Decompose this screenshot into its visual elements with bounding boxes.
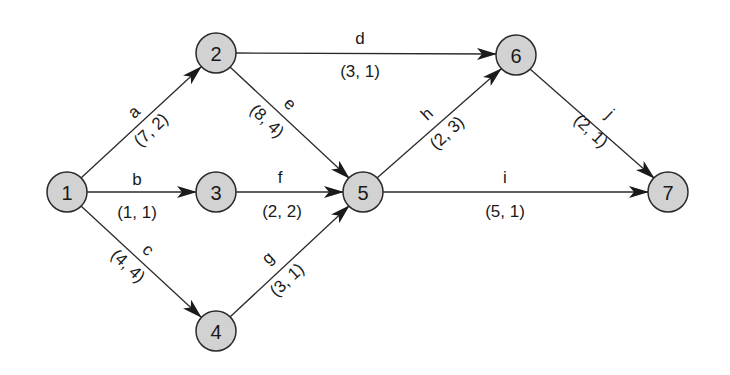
node-3-label: 3 bbox=[210, 182, 221, 204]
node-6-label: 6 bbox=[510, 45, 521, 67]
edge-g-arrow bbox=[230, 206, 349, 317]
node-1-label: 1 bbox=[61, 182, 72, 204]
node-1: 1 bbox=[47, 172, 87, 212]
node-3: 3 bbox=[196, 172, 236, 212]
edge-e-arrow bbox=[230, 67, 349, 178]
edge-a-name-label: a bbox=[124, 101, 144, 122]
node-5-label: 5 bbox=[357, 182, 368, 204]
edge-c: c (4, 4) bbox=[81, 206, 201, 317]
edge-j-name-label: j bbox=[601, 105, 617, 122]
edge-f-name-label: f bbox=[278, 168, 283, 187]
node-4-label: 4 bbox=[210, 321, 221, 343]
edge-b: b (1, 1) bbox=[87, 170, 196, 222]
node-5: 5 bbox=[343, 172, 383, 212]
edge-d: d (3, 1) bbox=[236, 29, 496, 81]
edge-h-arrow bbox=[377, 69, 501, 178]
edge-i: i (5, 1) bbox=[383, 168, 648, 221]
node-2-label: 2 bbox=[210, 43, 221, 65]
node-6: 6 bbox=[496, 35, 536, 75]
edge-h: h (2, 3) bbox=[377, 69, 501, 178]
edge-b-weight-label: (1, 1) bbox=[117, 203, 157, 222]
node-4: 4 bbox=[196, 311, 236, 351]
edge-c-name-label: c bbox=[138, 240, 158, 260]
edge-i-weight-label: (5, 1) bbox=[485, 202, 525, 221]
edge-f-weight-label: (2, 2) bbox=[262, 202, 302, 221]
edge-a: a (7, 2) bbox=[81, 67, 201, 178]
edge-e: e (8, 4) bbox=[230, 67, 349, 178]
edge-g: g (3, 1) bbox=[230, 206, 349, 317]
edge-h-name-label: h bbox=[417, 104, 437, 124]
network-diagram: a (7, 2) b (1, 1) c (4, 4) d (3, 1) e (8… bbox=[0, 0, 730, 375]
edge-j: j (2, 1) bbox=[530, 69, 654, 178]
edge-b-name-label: b bbox=[132, 170, 141, 189]
node-7: 7 bbox=[648, 172, 688, 212]
edge-d-name-label: d bbox=[355, 29, 364, 48]
edge-d-weight-label: (3, 1) bbox=[340, 62, 380, 81]
node-2: 2 bbox=[196, 33, 236, 73]
edge-d-arrow bbox=[236, 53, 496, 54]
edge-a-arrow bbox=[81, 67, 201, 178]
edge-f: f (2, 2) bbox=[236, 168, 343, 221]
edge-c-arrow bbox=[81, 206, 201, 317]
node-7-label: 7 bbox=[662, 182, 673, 204]
edge-i-name-label: i bbox=[503, 168, 507, 187]
edge-e-name-label: e bbox=[280, 94, 300, 114]
edge-g-name-label: g bbox=[258, 248, 278, 268]
